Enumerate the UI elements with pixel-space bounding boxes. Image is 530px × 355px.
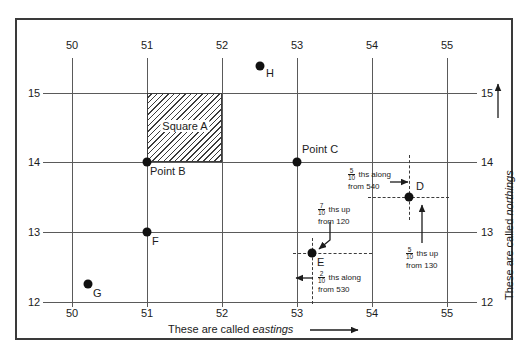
annotation-d-along-line1: 510 ths along (348, 170, 391, 179)
point-d-label: D (416, 180, 424, 192)
point-e-label: E (317, 256, 324, 268)
point-g-marker[interactable] (84, 280, 93, 289)
fraction-5-10-along: 510 (348, 168, 355, 182)
x-axis-caption: These are called eastings (168, 323, 293, 335)
plot-area: 50 51 52 53 54 55 50 51 52 53 54 55 15 1… (0, 0, 530, 355)
point-d-marker[interactable] (405, 193, 414, 202)
annotation-e-along-line1: 210 ths along (318, 273, 361, 282)
figure-root: 50 51 52 53 54 55 50 51 52 53 54 55 15 1… (0, 0, 530, 355)
fraction-5-10-up: 510 (406, 247, 413, 261)
annotation-d-up-line1: 510 ths up (406, 249, 438, 258)
y-axis-caption: These are called northings (503, 170, 515, 300)
point-g-label: G (93, 287, 102, 299)
point-b-label: Point B (150, 165, 185, 177)
point-c-label: Point C (302, 143, 338, 155)
point-h-label: H (266, 67, 274, 79)
annotation-e-up-line1: 710 ths up (318, 205, 350, 214)
annotation-e-along: 210 ths along from 530 (318, 271, 361, 294)
annotation-e-up-line2: from 120 (318, 217, 350, 226)
y-axis-caption-prefix: These are called (503, 216, 515, 300)
x-axis-caption-prefix: These are called (168, 323, 252, 335)
annotation-e-along-line2: from 530 (318, 285, 361, 294)
point-e-marker[interactable] (308, 249, 317, 258)
annotation-e-up: 710 ths up from 120 (318, 203, 350, 226)
y-axis-caption-term: northings (503, 170, 515, 215)
point-f-label: F (152, 235, 159, 247)
x-axis-caption-term: eastings (252, 323, 293, 335)
annotation-d-along-line2: from 540 (348, 182, 391, 191)
annotation-arrows (0, 0, 530, 355)
point-c-marker[interactable] (293, 158, 302, 167)
fraction-2-10-along: 210 (318, 271, 325, 285)
point-f-marker[interactable] (143, 228, 152, 237)
annotation-d-up-line2: from 130 (406, 261, 438, 270)
annotation-d-along: 510 ths along from 540 (348, 168, 391, 191)
annotation-d-up: 510 ths up from 130 (406, 247, 438, 270)
fraction-7-10-up: 710 (318, 203, 325, 217)
point-h-marker[interactable] (256, 62, 265, 71)
